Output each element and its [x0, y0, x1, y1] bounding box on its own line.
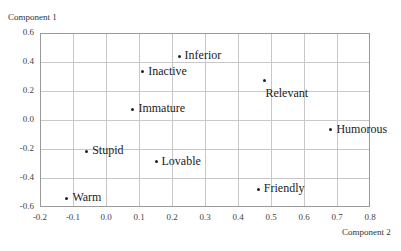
data-point: Humorous	[329, 123, 387, 135]
data-point: Inactive	[141, 65, 187, 77]
y-gridline	[41, 120, 369, 121]
point-marker-icon	[257, 188, 260, 191]
x-tick-label: 0.7	[322, 212, 352, 222]
y-gridline	[41, 91, 369, 92]
y-tick-label: 0.0	[4, 114, 34, 124]
point-label: Stupid	[92, 143, 123, 157]
x-axis-label: Component 2	[342, 227, 391, 237]
point-marker-icon	[178, 55, 181, 58]
point-marker-icon	[141, 70, 144, 73]
data-point: Warm	[65, 191, 101, 203]
point-label: Inactive	[148, 64, 187, 78]
x-tick-label: 0.0	[91, 212, 121, 222]
point-label: Friendly	[264, 181, 305, 195]
x-tick-label: 0.1	[124, 212, 154, 222]
data-point: Friendly	[257, 182, 305, 194]
y-tick-label: 0.4	[4, 56, 34, 66]
point-label: Relevant	[265, 87, 308, 99]
x-tick-label: 0.3	[190, 212, 220, 222]
data-point: Immature	[131, 102, 185, 114]
point-label: Warm	[72, 190, 101, 204]
point-marker-icon	[85, 150, 88, 153]
point-marker-icon	[155, 160, 158, 163]
point-label: Lovable	[162, 154, 201, 168]
y-gridline	[41, 178, 369, 179]
x-tick-label: 0.2	[157, 212, 187, 222]
x-tick-label: 0.5	[256, 212, 286, 222]
x-tick-label: -0.1	[58, 212, 88, 222]
y-tick-label: -0.4	[4, 172, 34, 182]
point-marker-icon	[131, 108, 134, 111]
data-point: Stupid	[85, 144, 123, 156]
point-marker-icon	[65, 197, 68, 200]
x-tick-label: 0.6	[289, 212, 319, 222]
point-label: Inferior	[185, 48, 222, 62]
data-point: Inferior	[178, 49, 222, 61]
y-axis-label: Component 1	[8, 12, 57, 22]
y-tick-label: 0.6	[4, 27, 34, 37]
point-marker-icon	[329, 128, 332, 131]
x-tick-label: -0.2	[25, 212, 55, 222]
point-label: Immature	[138, 101, 185, 115]
y-gridline	[41, 62, 369, 63]
x-tick-label: 0.4	[223, 212, 253, 222]
y-tick-label: 0.2	[4, 85, 34, 95]
point-label: Humorous	[336, 122, 387, 136]
y-tick-label: -0.6	[4, 201, 34, 211]
x-tick-label: 0.8	[355, 212, 385, 222]
data-point: Lovable	[155, 155, 201, 167]
y-tick-label: -0.2	[4, 143, 34, 153]
